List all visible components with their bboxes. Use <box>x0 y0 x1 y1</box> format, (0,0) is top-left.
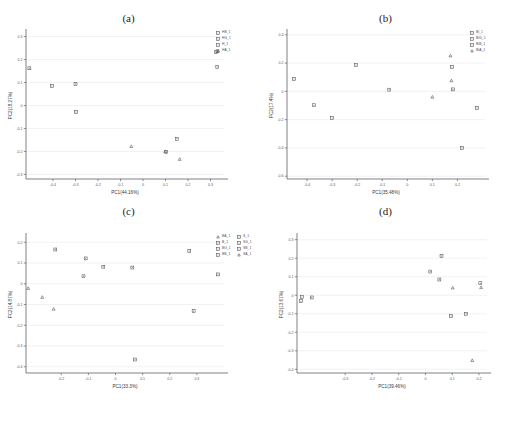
square-marker-icon <box>470 37 474 41</box>
svg-text:-0.4: -0.4 <box>50 183 56 187</box>
svg-text:0.3: 0.3 <box>208 183 213 187</box>
square-marker-icon <box>216 43 220 47</box>
legend-item[interactable]: HA_1 <box>216 48 231 54</box>
data-point <box>74 82 77 85</box>
clipped-header-text: ·· ·· ·· · · · · · · · · · · <box>196 0 514 3</box>
data-point <box>450 79 453 82</box>
svg-text:PC1(33.3%): PC1(33.3%) <box>112 384 137 389</box>
data-point <box>310 296 313 299</box>
panel-c-scatter: -0.4-0.3-0.2-0.100.10.2-0.2-0.100.10.20.… <box>0 230 230 395</box>
square-marker-icon <box>216 253 220 257</box>
svg-text:-0.1: -0.1 <box>379 183 385 187</box>
panel-a-caption: (a) <box>0 12 257 24</box>
svg-text:-0.1: -0.1 <box>16 127 22 131</box>
data-point <box>52 308 55 311</box>
data-point <box>354 64 357 67</box>
svg-text:0: 0 <box>282 90 284 94</box>
svg-text:0.1: 0.1 <box>140 377 145 381</box>
panel-d: (d) -0.4-0.3-0.2-0.100.10.20.3-0.3-0.2-0… <box>257 200 514 400</box>
square-marker-icon <box>470 31 474 35</box>
square-marker-icon <box>216 241 220 245</box>
data-point <box>480 286 483 289</box>
data-point <box>451 286 454 289</box>
svg-text:0.1: 0.1 <box>289 275 294 279</box>
svg-text:0.3: 0.3 <box>194 377 199 381</box>
svg-text:-0.3: -0.3 <box>329 183 335 187</box>
legend-label: SA_1 <box>243 252 251 258</box>
svg-text:0: 0 <box>142 183 144 187</box>
svg-text:0: 0 <box>406 183 408 187</box>
svg-text:0: 0 <box>424 377 426 381</box>
data-point <box>54 248 57 251</box>
square-marker-icon <box>237 235 241 239</box>
svg-text:PC2(18.27%): PC2(18.27%) <box>8 91 13 119</box>
svg-text:-0.2: -0.2 <box>58 377 64 381</box>
triangle-marker-icon <box>237 253 241 257</box>
svg-text:0.2: 0.2 <box>18 241 23 245</box>
legend-label: BIA_1 <box>476 48 485 54</box>
svg-text:0.2: 0.2 <box>289 257 294 261</box>
svg-text:0.2: 0.2 <box>167 377 172 381</box>
data-point <box>440 255 443 258</box>
svg-text:0.3: 0.3 <box>289 238 294 242</box>
svg-text:-0.2: -0.2 <box>277 118 283 122</box>
triangle-marker-icon <box>216 235 220 239</box>
legend-item[interactable]: BB_1 <box>216 252 231 258</box>
data-point <box>438 278 441 281</box>
data-point <box>479 282 482 285</box>
panel-d-caption: (d) <box>257 205 514 217</box>
svg-text:PC2(13.67%): PC2(13.67%) <box>279 290 284 318</box>
square-marker-icon <box>470 43 474 47</box>
svg-text:-0.1: -0.1 <box>117 183 123 187</box>
svg-text:0.2: 0.2 <box>186 183 191 187</box>
svg-text:0.4: 0.4 <box>279 33 284 37</box>
data-point <box>102 265 105 268</box>
data-point <box>27 287 30 290</box>
svg-text:-0.1: -0.1 <box>396 377 402 381</box>
data-point <box>476 107 479 110</box>
svg-text:0: 0 <box>115 377 117 381</box>
figure-canvas: ·· ·· ·· · · · · · · · · · · (a) -0.3-0.… <box>0 0 514 437</box>
data-point <box>388 88 391 91</box>
svg-text:0.1: 0.1 <box>18 81 23 85</box>
svg-text:0.1: 0.1 <box>18 261 23 265</box>
svg-text:0.2: 0.2 <box>18 58 23 62</box>
panel-d-plot: -0.4-0.3-0.2-0.100.10.20.3-0.3-0.2-0.100… <box>271 230 493 395</box>
data-point <box>451 88 454 91</box>
panel-a-plot: -0.3-0.2-0.100.10.20.3-0.4-0.3-0.2-0.100… <box>0 26 230 201</box>
svg-text:0.1: 0.1 <box>430 183 435 187</box>
square-marker-icon <box>216 31 220 35</box>
svg-text:0: 0 <box>292 294 294 298</box>
data-point <box>429 270 432 273</box>
data-point <box>130 145 133 148</box>
svg-text:-0.1: -0.1 <box>287 312 293 316</box>
triangle-marker-icon <box>470 49 474 53</box>
data-point <box>41 296 44 299</box>
svg-text:-0.3: -0.3 <box>16 173 22 177</box>
legend-item[interactable]: SA_1 <box>237 252 252 258</box>
legend-item[interactable]: BIA_1 <box>470 48 486 54</box>
data-point <box>313 104 316 107</box>
svg-text:PC1(35.48%): PC1(35.48%) <box>372 190 400 195</box>
data-point <box>450 66 453 69</box>
svg-text:-0.2: -0.2 <box>16 150 22 154</box>
data-point <box>188 249 191 252</box>
panel-c-plot: -0.4-0.3-0.2-0.100.10.2-0.2-0.100.10.20.… <box>0 230 230 395</box>
svg-text:-0.3: -0.3 <box>16 344 22 348</box>
data-point <box>450 315 453 318</box>
data-point <box>217 273 220 276</box>
svg-text:-0.3: -0.3 <box>342 377 348 381</box>
data-point <box>175 137 178 140</box>
data-point <box>449 54 452 57</box>
svg-text:-0.2: -0.2 <box>354 183 360 187</box>
svg-text:-0.6: -0.6 <box>277 174 283 178</box>
data-point <box>178 158 181 161</box>
panel-a-legend: HB_1HG_1H_1HA_1 <box>216 30 231 54</box>
svg-text:0: 0 <box>21 104 23 108</box>
panel-b: (b) -0.6-0.4-0.200.20.4-0.4-0.3-0.2-0.10… <box>257 12 514 202</box>
data-point <box>134 358 137 361</box>
data-point <box>28 67 31 70</box>
svg-text:0: 0 <box>21 282 23 286</box>
svg-text:-0.4: -0.4 <box>287 368 293 372</box>
svg-text:-0.4: -0.4 <box>277 146 283 150</box>
